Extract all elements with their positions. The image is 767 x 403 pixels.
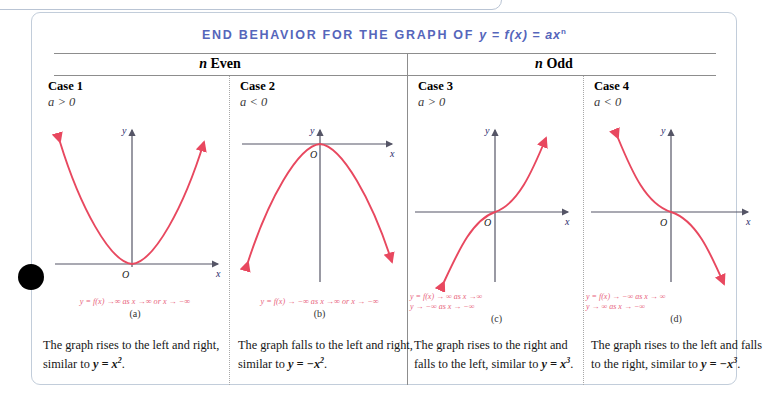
case-4-graph: x y O	[586, 112, 766, 292]
case-1-graph: x y O	[40, 112, 230, 297]
group-even-n: n	[199, 56, 207, 71]
svg-text:x: x	[564, 216, 570, 227]
case-2-desc-period: .	[324, 357, 327, 371]
svg-text:O: O	[122, 269, 129, 280]
case-1-desc-period: .	[122, 357, 125, 371]
case-2-formula: y = f(x) → −∞ as x →∞ or x → −∞	[232, 297, 407, 307]
case-1-sublabel: (a)	[40, 308, 230, 319]
rule-middle	[54, 75, 716, 76]
case-1-description: The graph rises to the left and right, s…	[43, 338, 223, 372]
case-2-desc-eq: y = −x	[288, 357, 320, 371]
case-4-description: The graph rises to the left and falls to…	[591, 338, 767, 372]
title-equation: y = f(x) = ax	[479, 28, 561, 42]
case-4-formula-line-1: y = f(x) → −∞ as x → ∞	[586, 292, 766, 302]
case-1-condition: a > 0	[48, 95, 230, 110]
group-header-n-odd: n Odd	[392, 56, 716, 72]
case-3-formula-line-1: y = f(x) → ∞ as x →∞	[410, 292, 583, 302]
case-2-graph: x y O	[232, 112, 407, 297]
group-odd-label: Odd	[543, 56, 573, 71]
case-4-desc-eq: y = −x	[701, 357, 733, 371]
svg-text:y: y	[660, 125, 666, 136]
divider-even-odd	[407, 53, 408, 385]
case-1-desc-eq: y = x	[93, 357, 118, 371]
case-3-condition: a > 0	[418, 95, 583, 110]
case-3-desc-eq: y = x	[541, 357, 566, 371]
svg-text:y: y	[309, 125, 315, 136]
cursor-dot	[18, 264, 44, 290]
case-2-title: Case 2	[240, 79, 407, 94]
case-2-column: Case 2 a < 0 x y O y = f(x) → −∞ as x →∞…	[232, 79, 407, 319]
svg-text:O: O	[660, 217, 667, 228]
case-3-sublabel: (c)	[410, 313, 583, 324]
svg-text:y: y	[484, 125, 490, 136]
end-behavior-panel: END BEHAVIOR FOR THE GRAPH OF y = f(x) =…	[31, 12, 737, 385]
case-3-description: The graph rises to the right and falls t…	[414, 338, 584, 372]
case-2-sublabel: (b)	[232, 308, 407, 319]
svg-text:O: O	[484, 217, 491, 228]
case-4-title: Case 4	[594, 79, 766, 94]
case-2-description: The graph falls to the left and right, s…	[238, 338, 413, 372]
svg-text:O: O	[310, 149, 317, 160]
group-odd-n: n	[535, 56, 543, 71]
case-4-formula-line-2: y → ∞ as x → −∞	[586, 302, 766, 312]
case-4-condition: a < 0	[594, 95, 766, 110]
case-1-desc-text: The graph rises to the left and right, s…	[43, 338, 219, 371]
svg-text:x: x	[389, 148, 395, 159]
case-1-title: Case 1	[48, 79, 230, 94]
case-1-column: Case 1 a > 0 x y O y = f(x) →	[40, 79, 230, 319]
page-title: END BEHAVIOR FOR THE GRAPH OF y = f(x) =…	[32, 27, 736, 42]
case-4-desc-period: .	[737, 357, 740, 371]
case-4-column: Case 4 a < 0 x y O y = f(x) → −∞ as x → …	[586, 79, 766, 324]
case-1-formula: y = f(x) →∞ as x →∞ or x → −∞	[40, 297, 230, 307]
case-3-formula-line-2: y → −∞ as x → −∞	[410, 302, 583, 312]
svg-text:x: x	[215, 268, 221, 279]
svg-text:x: x	[745, 216, 751, 227]
title-exponent: n	[561, 27, 566, 36]
case-4-sublabel: (d)	[586, 313, 766, 324]
svg-text:y: y	[121, 125, 127, 136]
case-2-condition: a < 0	[240, 95, 407, 110]
rule-top	[54, 53, 716, 54]
case-3-title: Case 3	[418, 79, 583, 94]
title-main-text: END BEHAVIOR FOR THE GRAPH OF	[202, 28, 474, 42]
case-3-graph: x y O	[410, 112, 583, 292]
case-3-desc-period: .	[570, 357, 573, 371]
group-even-label: Even	[207, 56, 241, 71]
partial-box-above	[0, 0, 502, 10]
group-header-n-even: n Even	[54, 56, 386, 72]
case-3-column: Case 3 a > 0 x y O y = f(x) → ∞ as x →∞ …	[410, 79, 583, 324]
